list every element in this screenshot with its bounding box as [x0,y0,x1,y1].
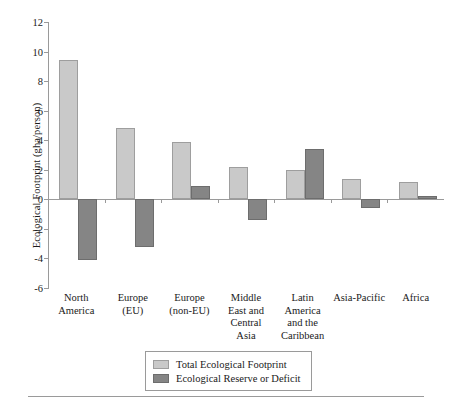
y-axis-line [48,22,49,288]
category-label: Africa [387,292,444,305]
y-tick-mark [44,52,49,53]
x-tick-mark [218,199,219,203]
legend-item-reserve: Ecological Reserve or Deficit [153,371,303,385]
y-tick-label: 6 [13,105,43,116]
bar-reserve-deficit [305,149,324,199]
category-label: MiddleEast andCentralAsia [218,292,275,342]
bar-total-footprint [399,182,418,200]
legend-swatch-total [153,360,169,369]
category-label: Asia-Pacific [331,292,388,305]
y-tick-label: -4 [13,253,43,264]
x-tick-mark [331,199,332,203]
y-tick-label: -2 [13,223,43,234]
bar-total-footprint [172,142,191,199]
y-tick-label: 4 [13,135,43,146]
x-tick-mark [274,199,275,203]
y-tick-mark [44,81,49,82]
x-tick-mark [387,199,388,203]
category-label: LatinAmericaand theCaribbean [274,292,331,342]
bar-reserve-deficit [191,186,210,199]
y-tick-label: 0 [13,194,43,205]
legend-item-total: Total Ecological Footprint [153,357,303,371]
legend-label-total: Total Ecological Footprint [176,359,287,370]
y-tick-label: 10 [13,46,43,57]
legend-label-reserve: Ecological Reserve or Deficit [176,373,301,384]
bar-total-footprint [59,60,78,199]
chart-legend: Total Ecological Footprint Ecological Re… [145,351,312,391]
chart-figure: Ecological Footprint (gha/person) 121086… [0,0,452,407]
y-tick-mark [44,140,49,141]
y-tick-mark [44,258,49,259]
bar-total-footprint [229,167,248,200]
bar-total-footprint [342,179,361,200]
category-label: Europe(EU) [105,292,162,317]
y-tick-mark [44,170,49,171]
y-tick-label: 2 [13,164,43,175]
zero-baseline [48,199,444,200]
y-tick-label: 12 [13,17,43,28]
plot-area: 121086420-2-4-6 [48,22,444,288]
y-tick-mark [44,288,49,289]
bar-reserve-deficit [248,199,267,220]
bar-total-footprint [116,128,135,199]
bar-reserve-deficit [418,196,437,200]
x-tick-mark [161,199,162,203]
y-tick-mark [44,111,49,112]
bar-reserve-deficit [361,199,380,208]
footer-rule [28,396,424,397]
bar-reserve-deficit [135,199,154,246]
category-label: Europe(non-EU) [161,292,218,317]
bar-total-footprint [286,170,305,200]
bar-reserve-deficit [78,199,97,260]
y-tick-label: -6 [13,283,43,294]
x-tick-mark [105,199,106,203]
y-tick-mark [44,22,49,23]
legend-swatch-reserve [153,374,169,383]
category-label: NorthAmerica [48,292,105,317]
y-tick-label: 8 [13,76,43,87]
y-tick-mark [44,229,49,230]
